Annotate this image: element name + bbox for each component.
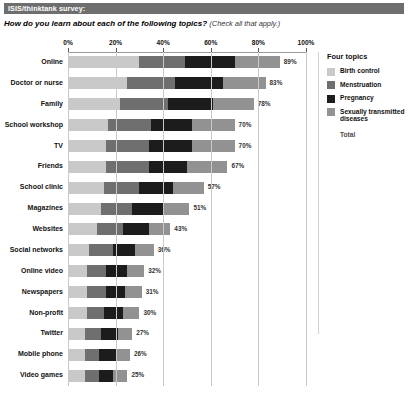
stacked-bar[interactable] xyxy=(68,223,170,235)
survey-banner: ISIS/thinktank survey: xyxy=(4,3,404,14)
x-tick-label: 0% xyxy=(63,39,73,46)
bar-value-label: 26% xyxy=(130,344,147,365)
category-label: Family xyxy=(41,94,63,115)
bar-segment xyxy=(163,203,189,215)
bar-row[interactable]: Newspapers31% xyxy=(68,282,306,303)
bar-row[interactable]: Magazines51% xyxy=(68,198,306,219)
bar-segment xyxy=(118,328,132,340)
plot-area: 0%20%40%60%80%100% Online89%Doctor or nu… xyxy=(68,52,306,386)
stacked-bar[interactable] xyxy=(68,370,128,382)
bar-value-label: 89% xyxy=(280,52,297,73)
legend-title: Four topics xyxy=(327,52,413,61)
chart-subtitle: How do you learn about each of the follo… xyxy=(4,19,404,29)
stacked-bar[interactable] xyxy=(68,161,227,173)
x-tick-label: 80% xyxy=(252,39,265,46)
bar-value-label: 36% xyxy=(154,240,171,261)
bar-row[interactable]: Twitter27% xyxy=(68,323,306,344)
bar-segment xyxy=(187,161,227,173)
bar-row[interactable]: Doctor or nurse83% xyxy=(68,73,306,94)
bar-segment xyxy=(235,56,280,68)
x-axis-ticklabels: 0%20%40%60%80%100% xyxy=(68,39,306,51)
bar-segment xyxy=(168,98,213,110)
bar-segment xyxy=(89,244,113,256)
stacked-bar[interactable] xyxy=(68,203,189,215)
bar-row[interactable]: Non-profit30% xyxy=(68,303,306,324)
stacked-bar[interactable] xyxy=(68,119,235,131)
chart-instruction: (Check all that apply.) xyxy=(209,19,280,28)
legend-item[interactable]: Pregnancy xyxy=(327,94,413,103)
bar-value-label: 57% xyxy=(204,177,221,198)
legend-item[interactable]: Sexually transmitted diseases xyxy=(327,108,413,123)
category-label: Websites xyxy=(32,219,63,240)
bar-value-label: 27% xyxy=(132,323,149,344)
bar-row[interactable]: Online89% xyxy=(68,52,306,73)
stacked-bar[interactable] xyxy=(68,307,139,319)
bar-row[interactable]: Friends67% xyxy=(68,156,306,177)
stacked-bar[interactable] xyxy=(68,182,204,194)
x-tick-label: 40% xyxy=(157,39,170,46)
x-tick xyxy=(306,48,307,52)
x-tick xyxy=(258,48,259,52)
bar-row[interactable]: Social networks36% xyxy=(68,240,306,261)
legend-item[interactable]: Menstruation xyxy=(327,81,413,90)
stacked-bar[interactable] xyxy=(68,56,280,68)
bar-segment xyxy=(87,307,104,319)
bar-row[interactable]: School workshop70% xyxy=(68,115,306,136)
legend-item[interactable]: Birth control xyxy=(327,67,413,76)
legend-swatch xyxy=(327,108,335,116)
bar-segment xyxy=(106,140,149,152)
stacked-bar[interactable] xyxy=(68,98,254,110)
bar-segment xyxy=(106,161,149,173)
category-label: Online xyxy=(41,52,63,73)
bar-row[interactable]: School clinic57% xyxy=(68,177,306,198)
bar-row[interactable]: TV70% xyxy=(68,136,306,157)
stacked-bar[interactable] xyxy=(68,286,142,298)
bar-segment xyxy=(68,328,85,340)
gridline xyxy=(211,52,212,386)
bar-segment xyxy=(116,349,130,361)
stacked-bar[interactable] xyxy=(68,265,144,277)
gridline xyxy=(68,52,69,386)
bar-value-label: 43% xyxy=(170,219,187,240)
gridline xyxy=(163,52,164,386)
bar-segment xyxy=(132,203,163,215)
stacked-bar[interactable] xyxy=(68,244,154,256)
bar-value-label: 67% xyxy=(227,156,244,177)
bar-segment xyxy=(87,286,106,298)
bar-row[interactable]: Websites43% xyxy=(68,219,306,240)
stacked-bar[interactable] xyxy=(68,349,130,361)
legend: Four topics Birth controlMenstruationPre… xyxy=(327,52,413,138)
gridline xyxy=(306,52,307,386)
bar-row[interactable]: Online video32% xyxy=(68,261,306,282)
bar-row[interactable]: Mobile phone26% xyxy=(68,344,306,365)
bar-segment xyxy=(68,370,85,382)
bar-row[interactable]: Video games25% xyxy=(68,365,306,386)
bar-segment xyxy=(123,223,149,235)
category-label: Twitter xyxy=(41,323,63,344)
bar-row[interactable]: Family78% xyxy=(68,94,306,115)
bar-segment xyxy=(173,182,204,194)
bar-segment xyxy=(68,286,87,298)
stacked-bar[interactable] xyxy=(68,77,266,89)
category-label: Social networks xyxy=(10,240,63,261)
bar-segment xyxy=(139,182,172,194)
category-label: School clinic xyxy=(20,177,63,198)
bar-segment xyxy=(68,77,127,89)
bar-segment xyxy=(68,119,108,131)
category-label: Magazines xyxy=(28,198,63,219)
bar-segment xyxy=(87,265,106,277)
stacked-bar[interactable] xyxy=(68,140,235,152)
stacked-bar[interactable] xyxy=(68,328,132,340)
chart-page: ISIS/thinktank survey: How do you learn … xyxy=(0,0,416,399)
legend-total-label: Total xyxy=(340,131,413,138)
chart-question: How do you learn about each of the follo… xyxy=(4,19,207,28)
bar-segment xyxy=(68,244,89,256)
category-label: Mobile phone xyxy=(18,344,63,365)
bar-segment xyxy=(85,328,102,340)
legend-item-label: Pregnancy xyxy=(340,94,374,102)
bar-segment xyxy=(123,307,140,319)
bar-segment xyxy=(68,161,106,173)
gridline xyxy=(258,52,259,386)
x-tick-label: 100% xyxy=(298,39,315,46)
x-tick-label: 20% xyxy=(109,39,122,46)
